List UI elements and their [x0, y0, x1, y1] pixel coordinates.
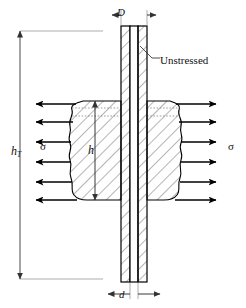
label-total-height-subscript: T	[17, 150, 21, 159]
label-unstressed: Unstressed	[160, 54, 208, 66]
shaft-core	[130, 26, 138, 282]
label-outer-diameter: D	[117, 6, 125, 18]
diagram-canvas	[0, 0, 246, 308]
bolt-shaft	[121, 26, 147, 282]
shaft-right-wall	[138, 26, 147, 282]
dimension-inner-diameter	[108, 282, 160, 299]
figure-bolted-joint-cross-section: hT h D d σ σ Unstressed	[0, 0, 246, 308]
label-inner-diameter: d	[119, 288, 125, 300]
label-total-height: hT	[11, 144, 21, 159]
label-stress-left: σ	[40, 140, 46, 152]
label-plate-height: h	[88, 143, 94, 158]
shaft-left-wall	[121, 26, 130, 282]
label-stress-right: σ	[228, 140, 234, 152]
